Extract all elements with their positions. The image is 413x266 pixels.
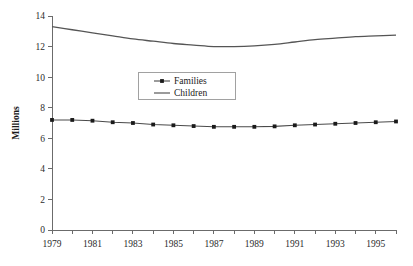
x-axis-tick-label: 1983 [123,239,142,249]
series-marker-families [50,118,54,122]
series-marker-families [313,123,317,127]
series-marker-families [374,120,378,124]
series-marker-families [131,121,135,125]
x-axis-tick-label: 1995 [366,239,385,249]
series-marker-families [252,125,256,129]
plot-background [0,0,413,266]
series-marker-families [172,123,176,127]
legend-swatch-marker-families [160,79,164,83]
series-marker-families [212,125,216,129]
x-axis-tick-label: 1981 [83,239,102,249]
y-axis-title: Millions [11,106,21,140]
series-marker-families [354,121,358,125]
y-axis-tick-label: 10 [36,73,46,83]
series-marker-families [111,120,115,124]
x-axis-tick-label: 1979 [43,239,62,249]
y-axis-tick-label: 4 [40,164,45,174]
x-axis-tick-label: 1987 [204,239,223,249]
y-axis-tick-label: 14 [36,11,46,21]
y-axis-tick-label: 8 [40,103,45,113]
series-marker-families [91,119,95,123]
x-axis-tick-label: 1993 [326,239,345,249]
series-marker-families [333,122,337,126]
x-axis-tick-label: 1985 [164,239,183,249]
y-axis-tick-label: 2 [40,195,45,205]
chart-legend: FamiliesChildren [138,72,235,99]
y-axis-tick-label: 0 [40,225,45,235]
y-axis-tick-label: 12 [36,42,46,52]
chart-figure: 02468101214 1979198119831985198719891991… [0,0,413,266]
y-axis-tick-label: 6 [40,134,45,144]
series-marker-families [273,124,277,128]
x-axis-tick-label: 1989 [245,239,264,249]
legend-label-families: Families [174,76,207,86]
line-chart-canvas: 02468101214 1979198119831985198719891991… [0,0,413,266]
x-axis-tick-label: 1991 [285,239,304,249]
legend-label-children: Children [174,88,207,98]
series-marker-families [70,118,74,122]
series-marker-families [192,124,196,128]
series-marker-families [232,125,236,129]
series-marker-families [293,123,297,127]
series-marker-families [151,123,155,127]
y-axis-title-group: Millions [11,106,21,140]
series-marker-families [394,120,398,124]
